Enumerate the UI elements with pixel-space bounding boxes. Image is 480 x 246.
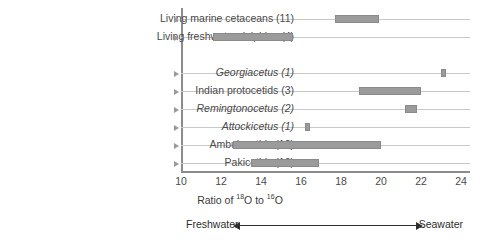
range-bar [233,141,381,149]
row-label: Living marine cetaceans (11) [160,13,294,24]
row-label: Remingtonocetus (2) [197,103,294,114]
row-tick-marker-icon [174,143,179,149]
row-tick-marker-icon [174,35,179,41]
row-label: Indian protocetids (3) [195,85,294,96]
x-tick-label: 12 [215,175,227,187]
row-tick-marker-icon [174,107,179,113]
range-bar [251,159,319,167]
row-tick-marker-icon [174,71,179,77]
x-tick-label: 16 [295,175,307,187]
isotope-ratio-chart: Living marine cetaceans (11)Living fresh… [0,0,480,246]
range-bar [213,33,293,41]
x-tick-label: 22 [415,175,427,187]
range-bar [405,105,417,113]
row-tick-marker-icon [174,161,179,167]
x-tick-label: 24 [455,175,467,187]
row-tick-marker-icon [174,125,179,131]
row-tick-marker-icon [174,17,179,23]
x-tick-label: 20 [375,175,387,187]
row-tick-marker-icon [174,89,179,95]
x-tick-label: 18 [335,175,347,187]
range-bar [305,123,310,131]
range-bar [335,15,379,23]
row-label: Attockicetus (1) [222,121,294,132]
x-axis-title: Ratio of 18O to 16O [0,193,480,206]
x-tick-label: 10 [175,175,187,187]
annotation-arrow-line [240,225,416,226]
range-bar [441,69,446,77]
annotation-label-seawater: Seawater [419,218,463,230]
annotation-label-freshwater: Freshwater [186,218,239,230]
row-label: Georgiacetus (1) [216,67,294,78]
arrow-head-left-icon [233,222,240,230]
salinity-annotation: Freshwater Seawater [0,218,480,234]
x-tick-label: 14 [255,175,267,187]
x-axis-line [181,171,470,173]
range-bar [359,87,421,95]
